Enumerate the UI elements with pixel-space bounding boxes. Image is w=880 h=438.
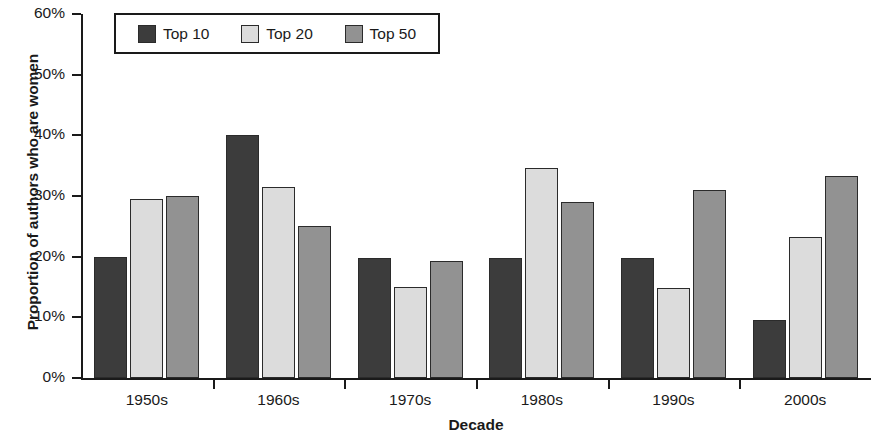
legend-item: Top 50 [345, 25, 417, 43]
y-axis-tick-mark [72, 195, 81, 197]
y-axis-tick-label: 50% [9, 65, 65, 83]
x-axis-group-label: 1960s [213, 391, 345, 409]
bar [358, 258, 391, 378]
legend-swatch-icon [345, 25, 363, 43]
legend-label: Top 20 [266, 25, 313, 43]
x-axis-group-label: 1980s [476, 391, 608, 409]
x-axis-tick-mark [608, 380, 610, 389]
x-axis-group-label: 1990s [608, 391, 740, 409]
x-axis-group-label: 1950s [81, 391, 213, 409]
x-axis-title: Decade [81, 416, 871, 434]
x-axis-tick-mark [739, 380, 741, 389]
bar [489, 258, 522, 378]
x-axis-group-label: 1970s [344, 391, 476, 409]
legend-item: Top 20 [241, 25, 313, 43]
legend-label: Top 10 [163, 25, 210, 43]
x-axis-group-label: 2000s [739, 391, 871, 409]
legend-swatch-icon [138, 25, 156, 43]
bar [94, 257, 127, 378]
bar [298, 226, 331, 378]
y-axis-tick-label: 60% [9, 4, 65, 22]
bar [753, 320, 786, 378]
y-axis-tick-mark [72, 316, 81, 318]
legend-swatch-icon [241, 25, 259, 43]
y-axis-tick-label: 30% [9, 186, 65, 204]
bar [789, 237, 822, 378]
bar [262, 187, 295, 378]
x-axis-tick-mark [476, 380, 478, 389]
legend-label: Top 50 [370, 25, 417, 43]
y-axis-tick-label: 0% [9, 368, 65, 386]
y-axis-tick-mark [72, 134, 81, 136]
bar [394, 287, 427, 378]
bar [430, 261, 463, 378]
x-axis-tick-mark [344, 380, 346, 389]
bar [561, 202, 594, 378]
bar [621, 258, 654, 378]
plot-area [81, 14, 871, 378]
legend: Top 10Top 20Top 50 [114, 13, 440, 54]
y-axis-tick-mark [72, 74, 81, 76]
y-axis-tick-label: 10% [9, 307, 65, 325]
y-axis-tick-mark [72, 377, 81, 379]
x-axis-tick-mark [213, 380, 215, 389]
y-axis-tick-mark [72, 13, 81, 15]
legend-item: Top 10 [138, 25, 210, 43]
y-axis-tick-label: 20% [9, 247, 65, 265]
bar [657, 288, 690, 378]
bar-chart: Proportion of authors who are women 0%10… [0, 0, 880, 438]
bar [130, 199, 163, 378]
y-axis-tick-label: 40% [9, 125, 65, 143]
legend-items: Top 10Top 20Top 50 [116, 15, 438, 52]
y-axis-tick-mark [72, 256, 81, 258]
bar [226, 135, 259, 378]
bar [825, 176, 858, 378]
bar [166, 196, 199, 378]
bar [525, 168, 558, 378]
bar [693, 190, 726, 378]
